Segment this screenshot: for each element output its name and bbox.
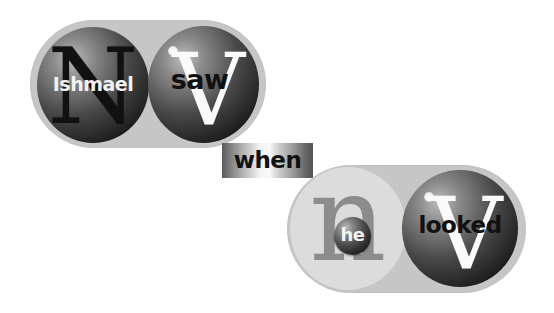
- pronoun-sphere: he: [334, 217, 371, 255]
- verb-sphere-2: V looked: [402, 170, 518, 287]
- noun-sphere: N Ishmael: [37, 27, 149, 143]
- pronoun-word: he: [334, 224, 371, 245]
- noun-word: Ishmael: [37, 73, 149, 95]
- verb-word: saw: [148, 64, 259, 95]
- verb-sphere: V saw: [148, 26, 259, 143]
- verb-word-2: looked: [402, 212, 518, 238]
